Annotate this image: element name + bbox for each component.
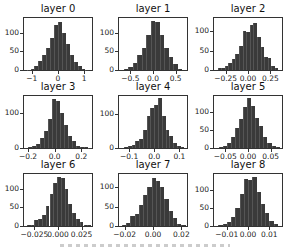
- plot-area: [118, 17, 188, 71]
- y-tick-label: 0: [94, 143, 114, 152]
- caption-glyph-fragments: [60, 244, 230, 247]
- y-tick-label: 100: [94, 28, 114, 37]
- x-tick-mark: [84, 71, 85, 74]
- x-tick-mark: [28, 149, 29, 152]
- x-tick-mark: [153, 71, 154, 74]
- x-tick-mark: [227, 227, 228, 230]
- y-tick-label: 100: [0, 28, 19, 37]
- y-tick-label: 0: [94, 65, 114, 74]
- y-tick-label: 100: [0, 184, 19, 193]
- panel-title: layer 7: [118, 159, 188, 170]
- panel-title: layer 5: [213, 81, 283, 92]
- y-tick-mark: [115, 51, 118, 52]
- panel-title: layer 1: [118, 3, 188, 14]
- x-tick-mark: [270, 71, 271, 74]
- x-tick-mark: [125, 227, 126, 230]
- x-tick-mark: [226, 71, 227, 74]
- y-tick-label: 0: [189, 221, 209, 230]
- y-tick-mark: [20, 189, 23, 190]
- y-tick-mark: [20, 33, 23, 34]
- y-tick-mark: [210, 130, 213, 131]
- y-tick-label: 0: [0, 65, 19, 74]
- x-tick-mark: [248, 227, 249, 230]
- y-tick-label: 50: [94, 202, 114, 211]
- x-tick-mark: [176, 71, 177, 74]
- y-tick-mark: [115, 70, 118, 71]
- panel-title: layer 3: [23, 81, 93, 92]
- x-tick-mark: [181, 227, 182, 230]
- y-tick-label: 100: [189, 107, 209, 116]
- y-tick-mark: [115, 33, 118, 34]
- x-tick-mark: [271, 149, 272, 152]
- histogram-bar: [181, 147, 185, 148]
- y-tick-mark: [210, 148, 213, 149]
- y-tick-label: 100: [189, 185, 209, 194]
- y-tick-mark: [210, 31, 213, 32]
- x-tick-mark: [269, 227, 270, 230]
- y-tick-mark: [210, 190, 213, 191]
- y-tick-mark: [20, 51, 23, 52]
- x-tick-label: 0.02: [163, 230, 199, 239]
- histogram-bar: [178, 69, 183, 70]
- y-tick-label: 50: [189, 203, 209, 212]
- plot-area: [118, 173, 188, 227]
- histogram-bar: [274, 224, 278, 226]
- x-tick-mark: [58, 227, 59, 230]
- x-tick-mark: [129, 149, 130, 152]
- histogram-bar: [181, 225, 185, 226]
- y-tick-mark: [210, 112, 213, 113]
- x-tick-mark: [153, 227, 154, 230]
- y-tick-label: 50: [0, 202, 19, 211]
- plot-area: [213, 95, 283, 149]
- histogram-bar: [276, 147, 280, 148]
- x-tick-mark: [32, 71, 33, 74]
- y-tick-mark: [210, 208, 213, 209]
- x-tick-mark: [130, 71, 131, 74]
- plot-area: [23, 95, 93, 149]
- plot-area: [23, 17, 93, 71]
- y-tick-label: 100: [189, 26, 209, 35]
- panel-title: layer 2: [213, 3, 283, 14]
- x-tick-mark: [82, 227, 83, 230]
- x-tick-mark: [248, 149, 249, 152]
- y-tick-label: 0: [0, 143, 19, 152]
- y-tick-mark: [20, 207, 23, 208]
- y-tick-mark: [20, 226, 23, 227]
- x-tick-label: 0.025: [64, 230, 100, 239]
- panel-title: layer 0: [23, 3, 93, 14]
- panel-title: layer 8: [213, 159, 283, 170]
- x-tick-mark: [248, 71, 249, 74]
- y-tick-mark: [115, 114, 118, 115]
- y-tick-label: 100: [94, 109, 114, 118]
- y-tick-label: 100: [0, 108, 19, 117]
- y-tick-label: 50: [189, 125, 209, 134]
- y-tick-label: 100: [94, 182, 114, 191]
- y-tick-mark: [210, 70, 213, 71]
- y-tick-mark: [115, 226, 118, 227]
- x-tick-mark: [179, 149, 180, 152]
- y-tick-label: 50: [189, 46, 209, 55]
- y-tick-label: 50: [0, 46, 19, 55]
- x-tick-mark: [34, 227, 35, 230]
- y-tick-mark: [115, 148, 118, 149]
- y-tick-label: 0: [189, 143, 209, 152]
- histogram-bar: [87, 225, 91, 226]
- plot-area: [213, 17, 283, 71]
- y-tick-label: 0: [94, 221, 114, 230]
- figure-caption-partial: [60, 241, 230, 249]
- y-tick-label: 0: [189, 65, 209, 74]
- y-tick-label: 0: [0, 221, 19, 230]
- y-tick-mark: [20, 113, 23, 114]
- panel-title: layer 6: [23, 159, 93, 170]
- panel-title: layer 4: [118, 81, 188, 92]
- y-tick-mark: [210, 51, 213, 52]
- x-tick-mark: [58, 71, 59, 74]
- plot-area: [118, 95, 188, 149]
- histogram-bar: [275, 68, 279, 70]
- y-tick-mark: [115, 207, 118, 208]
- x-tick-label: 0.01: [251, 230, 287, 239]
- y-tick-mark: [20, 148, 23, 149]
- x-tick-mark: [225, 149, 226, 152]
- y-tick-mark: [20, 70, 23, 71]
- y-tick-mark: [210, 226, 213, 227]
